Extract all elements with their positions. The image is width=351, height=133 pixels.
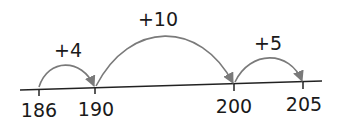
jump-arc-plus-10 — [96, 36, 233, 86]
jump-label-plus-5: +5 — [254, 32, 282, 54]
tick-label-190: 190 — [78, 98, 114, 120]
jump-arc-plus-5 — [235, 58, 302, 82]
tick-label-205: 205 — [286, 93, 322, 115]
number-line — [20, 81, 322, 90]
tick-label-200: 200 — [216, 95, 252, 117]
jump-label-plus-10: +10 — [138, 8, 178, 30]
jump-label-plus-4: +4 — [54, 39, 82, 61]
tick-label-186: 186 — [21, 99, 57, 121]
jump-arc-plus-4 — [39, 65, 94, 87]
number-line-diagram: 186 190 200 205 +4 +10 +5 — [0, 0, 351, 133]
